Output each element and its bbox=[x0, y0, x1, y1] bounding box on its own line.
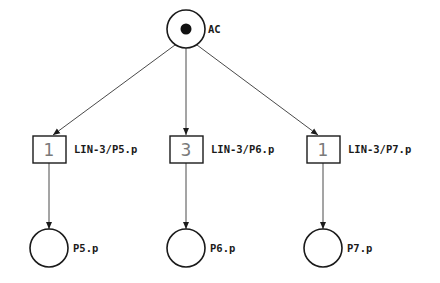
transition-lin3-p5[interactable]: 1 LIN-3/P5.p bbox=[33, 136, 137, 163]
transition-lin3-p7-label: LIN-3/P7.p bbox=[348, 143, 411, 155]
transition-lin3-p6-label: LIN-3/P6.p bbox=[211, 143, 274, 155]
transition-lin3-p6-count: 3 bbox=[181, 140, 192, 160]
place-p6-circle bbox=[167, 229, 205, 267]
place-p5-circle bbox=[30, 229, 68, 267]
place-ac[interactable]: AC bbox=[167, 10, 221, 48]
transition-lin3-p6[interactable]: 3 LIN-3/P6.p bbox=[170, 136, 274, 163]
place-p7[interactable]: P7.p bbox=[304, 229, 372, 267]
place-p6[interactable]: P6.p bbox=[167, 229, 235, 267]
transition-lin3-p5-label: LIN-3/P5.p bbox=[74, 143, 137, 155]
petri-net-diagram: AC 1 LIN-3/P5.p 3 LIN-3/P6.p 1 LIN-3/P7.… bbox=[0, 0, 440, 283]
place-p7-circle bbox=[304, 229, 342, 267]
place-p6-label: P6.p bbox=[210, 242, 235, 254]
transition-lin3-p7[interactable]: 1 LIN-3/P7.p bbox=[307, 136, 411, 163]
place-ac-label: AC bbox=[208, 23, 221, 35]
place-p5[interactable]: P5.p bbox=[30, 229, 98, 267]
arc-ac-to-lin3-p5 bbox=[53, 45, 175, 135]
token-dot-icon bbox=[181, 24, 192, 35]
place-p7-label: P7.p bbox=[347, 242, 372, 254]
arc-ac-to-lin3-p7 bbox=[197, 45, 318, 135]
place-p5-label: P5.p bbox=[73, 242, 98, 254]
transition-lin3-p7-count: 1 bbox=[318, 140, 329, 160]
transition-lin3-p5-count: 1 bbox=[44, 140, 55, 160]
